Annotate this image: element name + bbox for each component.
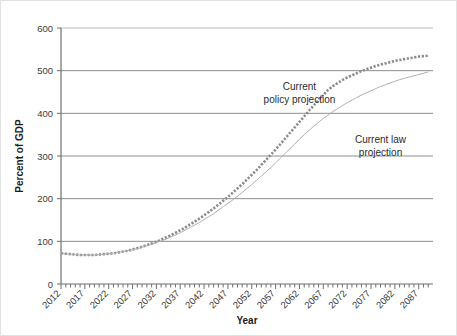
y-tick-label-200: 200 [37, 193, 53, 204]
current-law-annotation: Current lawprojection [355, 134, 407, 158]
x-tick-label-2037: 2037 [159, 288, 182, 311]
y-tick-label-400: 400 [37, 108, 53, 119]
x-tick-label-2012: 2012 [40, 288, 63, 311]
chart-canvas: 0100200300400500600201220172022202720322… [1, 1, 457, 336]
x-tick-label-2072: 2072 [326, 288, 349, 311]
x-tick-label-2027: 2027 [111, 288, 134, 311]
x-tick-label-2087: 2087 [397, 288, 420, 311]
x-tick-label-2062: 2062 [278, 288, 301, 311]
series-current-law [61, 72, 428, 255]
x-tick-label-2017: 2017 [64, 288, 87, 311]
y-tick-label-600: 600 [37, 23, 53, 34]
y-axis-title: Percent of GDP [14, 119, 25, 193]
x-tick-label-2067: 2067 [302, 288, 325, 311]
x-tick-label-2077: 2077 [350, 288, 373, 311]
y-tick-label-0: 0 [48, 279, 53, 290]
y-tick-label-300: 300 [37, 151, 53, 162]
x-tick-label-2047: 2047 [207, 288, 230, 311]
tick-labels-group: 0100200300400500600201220172022202720322… [37, 23, 420, 311]
x-tick-label-2052: 2052 [230, 288, 253, 311]
x-axis-title: Year [236, 315, 257, 326]
x-tick-label-2032: 2032 [135, 288, 158, 311]
chart-figure: 0100200300400500600201220172022202720322… [0, 0, 457, 336]
y-tick-label-500: 500 [37, 65, 53, 76]
y-tick-label-100: 100 [37, 236, 53, 247]
x-tick-label-2022: 2022 [87, 288, 110, 311]
x-tick-label-2057: 2057 [254, 288, 277, 311]
x-tick-label-2042: 2042 [183, 288, 206, 311]
annotations-group: Currentpolicy projectionCurrent lawproje… [264, 81, 407, 158]
x-tick-label-2082: 2082 [374, 288, 397, 311]
